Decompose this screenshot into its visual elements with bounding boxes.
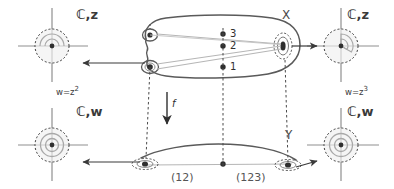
y-base-line: [146, 164, 292, 165]
formula-top-left: w=z2: [56, 86, 79, 96]
plane-label-top-left: ℂ,z: [76, 8, 98, 21]
surface-label-x: X: [282, 9, 290, 21]
monodromy-label-123: (123): [236, 172, 266, 183]
formula-top-left-base: w=z: [56, 87, 75, 97]
x-notch-curve: [146, 39, 148, 62]
origin-point: [50, 143, 55, 148]
projection-line-right: [285, 60, 288, 162]
x-sheet-line-1: [157, 49, 281, 69]
origin-point: [50, 44, 55, 49]
origin-point: [339, 143, 344, 148]
formula-top-right-exponent: 3: [364, 85, 368, 93]
origin-point: [339, 44, 344, 49]
x-sheet-line-2: [157, 46, 281, 64]
map-label-f: f: [172, 99, 176, 109]
chart-arrows: [83, 46, 317, 167]
fiber-point-label-3: 3: [230, 29, 236, 39]
x-right-branchpoint-core: [280, 41, 285, 50]
y-right-branchpoint-core: [285, 162, 291, 167]
y-outer-boundary: [141, 144, 296, 160]
x-sheet-line-3: [157, 34, 281, 44]
plane-label-top-right: ℂ,z: [347, 8, 369, 21]
fiber-point-label-1: 1: [230, 62, 236, 72]
monodromy-label-12: (12): [171, 172, 194, 183]
surface-y: [132, 144, 301, 171]
formula-top-right: w=z3: [345, 86, 368, 96]
riemann-covering-figure: ℂ,z w=z2 ℂ,w ℂ,z w=z3 ℂ,w X Y 3 2 1 f (1…: [0, 0, 394, 189]
formula-top-right-base: w=z: [345, 87, 364, 97]
x-sheet-line-3b: [150, 35, 281, 45]
formula-top-left-exponent: 2: [75, 85, 79, 93]
plane-label-bottom-right: ℂ,w: [347, 105, 374, 118]
surface-x: [142, 15, 301, 78]
surface-label-y: Y: [285, 129, 292, 141]
fiber-point-label-2: 2: [230, 41, 236, 51]
projection-line-left: [146, 67, 150, 158]
plane-label-bottom-left: ℂ,w: [76, 105, 103, 118]
arrow-y-to-plane-bottom-right: [296, 161, 317, 167]
y-left-branchpoint-core: [142, 161, 148, 166]
